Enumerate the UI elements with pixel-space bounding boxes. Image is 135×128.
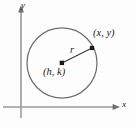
radius-label: r bbox=[70, 45, 74, 55]
center-point-label: (h, k) bbox=[43, 67, 65, 78]
y-axis-label: y bbox=[21, 1, 25, 10]
center-point-dot bbox=[60, 61, 64, 65]
x-axis-arrowhead bbox=[113, 104, 120, 110]
x-axis-label: x bbox=[122, 100, 126, 109]
radius-segment bbox=[62, 48, 92, 63]
boundary-point-label: (x, y) bbox=[93, 28, 115, 39]
boundary-point-dot bbox=[90, 46, 94, 50]
diagram-canvas bbox=[0, 0, 135, 128]
circle-diagram-figure: y x (x, y) (h, k) r bbox=[0, 0, 135, 128]
